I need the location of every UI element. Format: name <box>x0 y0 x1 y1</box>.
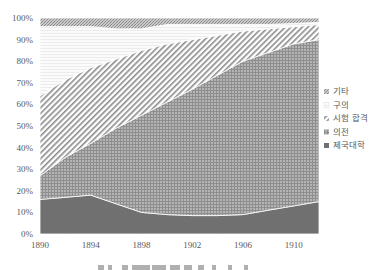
plot-area <box>40 18 319 234</box>
x-axis: 189018941898190219061910 <box>31 240 303 250</box>
caption-fragment <box>132 265 150 270</box>
y-axis: 0%10%20%30%40%50%60%70%80%90%100% <box>12 13 34 239</box>
x-tick-label: 1902 <box>183 240 201 250</box>
caption-fragment <box>170 265 180 270</box>
legend-label: 의전 <box>333 127 349 137</box>
legend-swatch-icon <box>324 143 329 148</box>
y-tick-label: 10% <box>17 207 34 217</box>
legend-label: 시험 합격 <box>333 113 368 123</box>
y-tick-label: 70% <box>17 78 34 88</box>
caption-fragment <box>108 265 112 270</box>
legend-swatch-icon <box>324 116 329 121</box>
y-tick-label: 50% <box>17 121 34 131</box>
x-tick-label: 1894 <box>82 240 101 250</box>
legend-swatch-icon <box>324 89 329 94</box>
legend-swatch-icon <box>324 103 329 108</box>
caption-fragment <box>98 265 104 270</box>
y-tick-label: 0% <box>21 229 34 239</box>
stacked-area-chart: 0%10%20%30%40%50%60%70%80%90%100% 189018… <box>0 0 377 270</box>
y-tick-label: 20% <box>17 186 34 196</box>
y-tick-label: 60% <box>17 99 34 109</box>
caption-fragment <box>198 265 204 270</box>
y-tick-label: 100% <box>12 13 34 23</box>
caption-fragment <box>228 265 232 270</box>
legend-label: 제국대학 <box>333 140 365 150</box>
caption-fragment <box>244 265 248 270</box>
chart-caption <box>98 265 248 270</box>
legend-label: 구의 <box>333 100 349 110</box>
caption-fragment <box>152 265 166 270</box>
caption-fragment <box>212 265 216 270</box>
y-tick-label: 90% <box>17 35 34 45</box>
y-tick-label: 30% <box>17 164 34 174</box>
x-tick-label: 1910 <box>285 240 304 250</box>
x-tick-label: 1890 <box>31 240 50 250</box>
x-tick-label: 1906 <box>234 240 253 250</box>
y-tick-label: 40% <box>17 143 34 153</box>
legend-label: 기타 <box>333 86 349 96</box>
caption-fragment <box>184 265 192 270</box>
caption-fragment <box>122 265 128 270</box>
x-tick-label: 1898 <box>132 240 151 250</box>
legend-swatch-icon <box>324 130 329 135</box>
y-tick-label: 80% <box>17 56 34 66</box>
legend: 기타구의시험 합격의전제국대학 <box>324 86 368 150</box>
